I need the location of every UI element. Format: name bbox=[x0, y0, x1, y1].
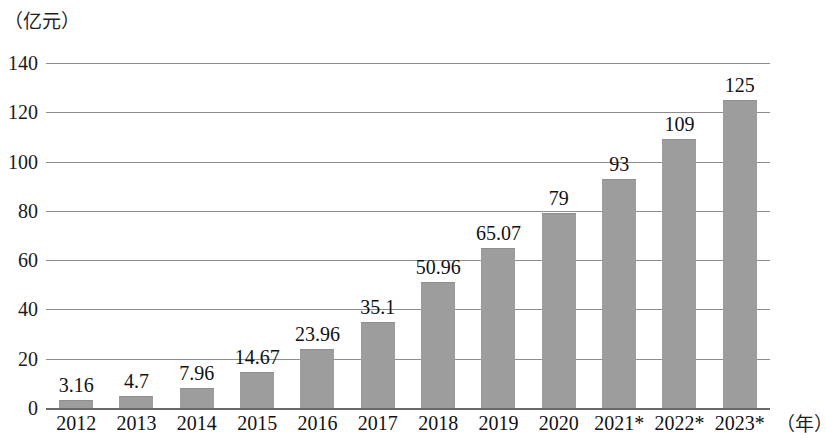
x-axis-category-label: 2021* bbox=[594, 413, 644, 433]
bar-group: 35.12017 bbox=[348, 63, 408, 408]
bar bbox=[240, 372, 274, 408]
x-axis-category-label: 2012 bbox=[56, 413, 96, 433]
bar bbox=[59, 400, 93, 408]
bar-value-label: 7.96 bbox=[179, 363, 214, 383]
bar-value-label: 65.07 bbox=[476, 223, 521, 243]
y-axis-tick-label: 20 bbox=[18, 349, 38, 369]
bar-value-label: 23.96 bbox=[295, 324, 340, 344]
bar bbox=[602, 179, 636, 408]
bar bbox=[481, 248, 515, 408]
bar bbox=[542, 213, 576, 408]
bar-group: 7.962014 bbox=[167, 63, 227, 408]
bar-value-label: 3.16 bbox=[59, 375, 94, 395]
x-axis-category-label: 2023* bbox=[715, 413, 765, 433]
y-axis-tick-label: 40 bbox=[18, 299, 38, 319]
x-axis-category-label: 2014 bbox=[177, 413, 217, 433]
bar bbox=[421, 282, 455, 408]
bar-group: 932021* bbox=[589, 63, 649, 408]
y-axis-tick-label: 60 bbox=[18, 250, 38, 270]
x-axis-category-label: 2019 bbox=[478, 413, 518, 433]
bar-group: 1092022* bbox=[649, 63, 709, 408]
x-axis-category-label: 2017 bbox=[358, 413, 398, 433]
bar-value-label: 125 bbox=[725, 75, 755, 95]
bar-group: 50.962018 bbox=[408, 63, 468, 408]
bar-value-label: 14.67 bbox=[235, 347, 280, 367]
y-axis-tick-label: 120 bbox=[8, 102, 38, 122]
bar-group: 4.72013 bbox=[106, 63, 166, 408]
bar-chart: （亿元） （年） 020406080100120140 3.1620124.72… bbox=[0, 0, 826, 438]
x-axis-unit-label: （年） bbox=[776, 409, 826, 436]
bar bbox=[662, 139, 696, 408]
y-axis-tick-label: 80 bbox=[18, 201, 38, 221]
bar bbox=[119, 396, 153, 408]
bar-value-label: 4.7 bbox=[124, 371, 149, 391]
bar bbox=[361, 322, 395, 408]
plot-area: 020406080100120140 3.1620124.720137.9620… bbox=[46, 63, 770, 408]
x-axis-category-label: 2015 bbox=[237, 413, 277, 433]
bar-series: 3.1620124.720137.96201414.67201523.96201… bbox=[46, 63, 770, 408]
bar-group: 3.162012 bbox=[46, 63, 106, 408]
bar-group: 1252023* bbox=[710, 63, 770, 408]
bar bbox=[723, 100, 757, 408]
bar-value-label: 79 bbox=[549, 188, 569, 208]
x-axis-category-label: 2016 bbox=[297, 413, 337, 433]
x-axis-category-label: 2022* bbox=[654, 413, 704, 433]
y-axis-tick-label: 0 bbox=[28, 398, 38, 418]
bar bbox=[180, 388, 214, 408]
bar-group: 65.072019 bbox=[468, 63, 528, 408]
bar-value-label: 50.96 bbox=[416, 257, 461, 277]
x-axis-category-label: 2018 bbox=[418, 413, 458, 433]
bar-group: 792020 bbox=[529, 63, 589, 408]
bar-value-label: 109 bbox=[664, 114, 694, 134]
bar-group: 14.672015 bbox=[227, 63, 287, 408]
x-axis-category-label: 2013 bbox=[116, 413, 156, 433]
bar-value-label: 93 bbox=[609, 154, 629, 174]
y-axis-tick-label: 140 bbox=[8, 53, 38, 73]
y-axis-tick-label: 100 bbox=[8, 152, 38, 172]
y-axis-unit-label: （亿元） bbox=[4, 6, 80, 33]
bar-value-label: 35.1 bbox=[360, 297, 395, 317]
x-axis-category-label: 2020 bbox=[539, 413, 579, 433]
bar bbox=[300, 349, 334, 408]
bar-group: 23.962016 bbox=[287, 63, 347, 408]
x-axis-line: 0 bbox=[46, 408, 770, 410]
